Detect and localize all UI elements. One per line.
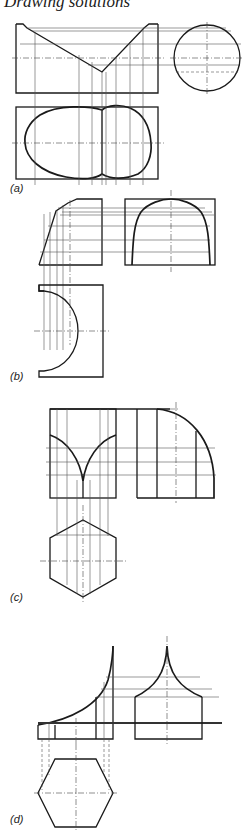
figure-d-elevation [38, 646, 222, 744]
figure-label-c: (c) [10, 591, 23, 603]
figure-label-a: (a) [10, 182, 23, 194]
figure-b-plan [34, 285, 110, 377]
figure-c-end-elevation [137, 402, 214, 503]
figure-label-b: (b) [10, 370, 23, 382]
figure-a [12, 22, 243, 185]
figure-b-end-elevation [125, 190, 215, 272]
figure-a-front-elevation [12, 24, 241, 93]
figure-d-plan [34, 739, 119, 831]
figure-b-elevation [39, 199, 214, 350]
figure-d-end-elevation [135, 636, 202, 745]
figure-c [40, 402, 216, 602]
figure-label-d: (d) [10, 813, 23, 825]
technical-drawings [0, 0, 244, 833]
figure-d [34, 636, 222, 831]
figure-a-end-view [170, 22, 243, 96]
figure-b [34, 190, 215, 377]
figure-c-plan [40, 498, 127, 602]
